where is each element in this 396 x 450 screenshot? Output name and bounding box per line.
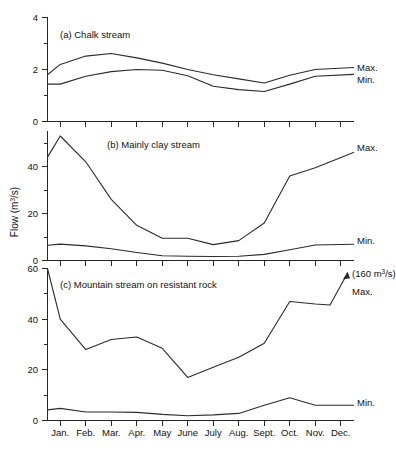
panel-c-ytick-0: 0 [33, 415, 38, 426]
panel-c-ytick-40: 40 [27, 314, 38, 325]
panel-b-y-minor-ticks [44, 143, 48, 237]
panel-a-min-line [48, 70, 354, 92]
month-label: May [153, 427, 171, 438]
panel-a-label-max: Max. [357, 62, 378, 73]
panel-c-title: (c) Mountain stream on resistant rock [60, 279, 217, 290]
panel-b: 40 20 0 (b) Mainly clay stream Max. Min. [27, 131, 377, 266]
panel-b-ytick-20: 20 [27, 208, 38, 219]
panel-b-title: (b) Mainly clay stream [107, 139, 200, 150]
month-label: Feb. [76, 427, 95, 438]
month-label: Jan. [51, 427, 69, 438]
panel-c: 60 40 20 0 (c) Mountain stream on resist… [27, 263, 395, 426]
panel-c-label-min: Min. [357, 397, 375, 408]
month-label: Sept. [253, 427, 275, 438]
panel-a-ytick-4: 4 [33, 12, 38, 23]
month-label: Apr. [128, 427, 145, 438]
panel-c-offscale-annotation: (160 m3/s) [352, 268, 396, 280]
panel-b-label-max: Max. [357, 142, 378, 153]
panel-b-y-major-ticks [42, 167, 48, 261]
panel-a-ytick-2: 2 [33, 64, 38, 75]
month-label: July [205, 427, 222, 438]
panel-c-y-minor-ticks [44, 294, 48, 395]
x-axis-month-labels: Jan. Feb. Mar. Apr. May June July Aug. S… [51, 427, 350, 438]
panel-a-ytick-0: 0 [33, 116, 38, 127]
month-label: June [177, 427, 198, 438]
y-axis-title: Flow (m3/s) [9, 187, 21, 237]
panel-a-label-min: Min. [357, 74, 375, 85]
month-label: Oct. [281, 427, 298, 438]
month-label: Aug. [229, 427, 249, 438]
panel-c-ytick-60: 60 [27, 263, 38, 274]
panel-b-ytick-40: 40 [27, 161, 38, 172]
panel-a-title: (a) Chalk stream [60, 29, 130, 40]
panel-b-max-line [48, 136, 354, 245]
month-label: Dec. [331, 427, 351, 438]
panel-c-ytick-20: 20 [27, 364, 38, 375]
panel-a: 4 2 0 (a) Chalk stream Max. Min. [33, 12, 378, 127]
panel-c-min-line [48, 398, 354, 416]
panel-a-y-major-ticks [42, 18, 48, 122]
panel-c-offscale-arrow-head [343, 272, 350, 280]
panel-c-label-max: Max. [352, 286, 373, 297]
panel-b-min-line [48, 244, 354, 256]
panel-b-x-ticks [60, 261, 341, 266]
flow-regime-figure: 4 2 0 (a) Chalk stream Max. Min. [0, 0, 396, 450]
month-label: Nov. [306, 427, 325, 438]
chart-svg: 4 2 0 (a) Chalk stream Max. Min. [0, 0, 396, 450]
panel-a-x-ticks [60, 122, 341, 127]
panel-b-label-min: Min. [357, 235, 375, 246]
panel-c-offscale-arrow-shaft [330, 276, 346, 305]
month-label: Mar. [102, 427, 120, 438]
panel-c-x-ticks [60, 421, 341, 426]
